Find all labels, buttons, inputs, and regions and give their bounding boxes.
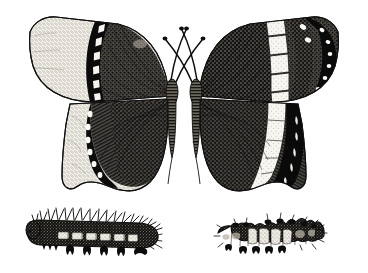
- butterfly-plate-svg: [0, 0, 368, 273]
- caterpillar-head: [26, 221, 40, 239]
- caterpillar-eye: [29, 230, 31, 232]
- antenna-right-club: [201, 37, 206, 41]
- forewing-disc-mark: [133, 40, 147, 49]
- butterfly-left-hindwing: [62, 99, 170, 191]
- caterpillar-head: [315, 229, 324, 239]
- antenna-left-club: [179, 27, 184, 31]
- antenna-right-club: [163, 37, 168, 41]
- illustration-plate: [0, 0, 368, 273]
- antenna-left-club: [184, 27, 189, 31]
